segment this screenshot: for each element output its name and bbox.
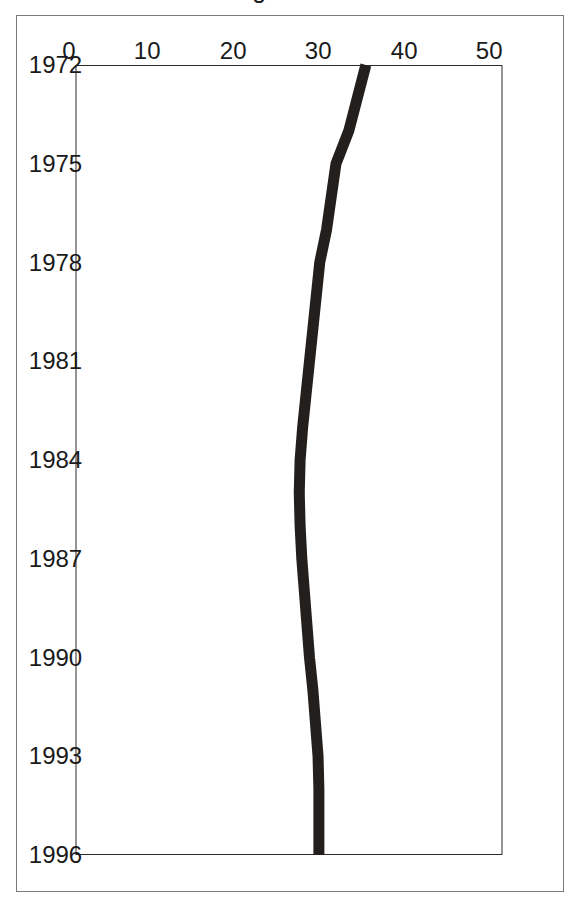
- y-tick-label-30: 30: [318, 51, 346, 78]
- x-tick-label-1981: 1981: [42, 335, 70, 388]
- series-layer: [76, 65, 503, 855]
- x-tick-label-1975: 1975: [42, 137, 70, 190]
- x-tick-label-1990: 1990: [42, 631, 70, 684]
- y-tick-label-50: 50: [489, 51, 517, 78]
- y-tick-label-40: 40: [403, 51, 431, 78]
- y-tick-label-20: 20: [232, 51, 260, 78]
- x-tick-label-1978: 1978: [42, 236, 70, 289]
- line-chart: 197219751978198119841987199019931996 010…: [76, 65, 503, 855]
- y-tick-label-0: 0: [62, 51, 90, 64]
- x-tick-label-1996: 1996: [42, 828, 70, 881]
- x-tick-label-1984: 1984: [42, 433, 70, 486]
- series-line-favoring-easier-divorce: [299, 65, 366, 855]
- y-tick-label-10: 10: [147, 51, 175, 78]
- figure-page: 197219751978198119841987199019931996 010…: [0, 0, 578, 920]
- y-axis-title: % favoring easier divorce: [149, 0, 430, 4]
- x-tick-label-1993: 1993: [42, 730, 70, 783]
- x-tick-label-1987: 1987: [42, 532, 70, 585]
